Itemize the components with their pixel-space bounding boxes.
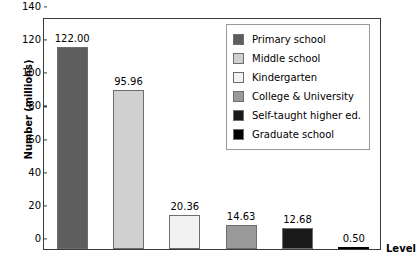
legend-item-label: Kindergarten [252,73,317,83]
legend-item-label: Middle school [252,54,320,64]
bar-value-label: 12.68 [283,215,312,225]
y-axis-tick-label: 80 [28,101,44,111]
y-axis-tick-mark [44,205,47,206]
y-axis-tick-mark [44,139,47,140]
y-axis-tick: 120 [22,35,44,45]
legend-item: Graduate school [233,125,361,144]
y-axis-tick: 80 [28,101,44,111]
legend-item-label: College & University [252,92,354,102]
bar-value-label: 0.50 [343,234,365,244]
legend-swatch [233,53,244,64]
y-axis-tick-label: 100 [22,68,44,78]
legend-item: Self-taught higher ed. [233,106,361,125]
y-axis-tick: 60 [28,135,44,145]
y-axis-tick: 140 [22,2,44,12]
x-axis-title: Level [386,243,416,254]
legend-item: Primary school [233,30,361,49]
bar-group: 122.00 [57,34,88,249]
y-axis-tick: 40 [28,168,44,178]
y-axis-tick: 100 [22,68,44,78]
legend-swatch [233,129,244,140]
bar-group: 14.63 [226,212,257,249]
y-axis-tick-label: 20 [28,201,44,211]
y-axis-tick-mark [44,238,47,239]
legend-swatch [233,91,244,102]
bar-group: 0.50 [338,234,369,249]
legend-item: Middle school [233,49,361,68]
legend-item-label: Graduate school [252,130,334,140]
bar [169,215,200,249]
legend-item-label: Self-taught higher ed. [252,111,361,121]
legend-swatch [233,110,244,121]
legend-item: Kindergarten [233,68,361,87]
y-axis-tick: 0 [35,234,44,244]
bar-value-label: 14.63 [227,212,256,222]
y-axis-tick-label: 120 [22,35,44,45]
y-axis-tick: 20 [28,201,44,211]
legend-swatch [233,34,244,45]
y-axis-tick-label: 60 [28,135,44,145]
legend-swatch [233,72,244,83]
y-axis-tick-label: 40 [28,168,44,178]
y-axis-tick-label: 140 [22,2,44,12]
y-axis-tick-mark [44,172,47,173]
legend-item-label: Primary school [252,35,326,45]
bar [113,90,144,249]
bar [282,228,313,249]
bar-group: 12.68 [282,215,313,249]
y-axis-tick-mark [44,106,47,107]
bar-value-label: 95.96 [114,77,143,87]
y-axis-tick-mark [44,6,47,7]
chart-legend: Primary schoolMiddle schoolKindergartenC… [226,24,370,150]
legend-item: College & University [233,87,361,106]
bar [226,225,257,249]
y-axis-tick-label: 0 [35,234,44,244]
bar-value-label: 20.36 [171,202,200,212]
bar-group: 20.36 [169,202,200,249]
bar [57,47,88,249]
bar-group: 95.96 [113,77,144,249]
y-axis-tick-mark [44,73,47,74]
bar-value-label: 122.00 [55,34,90,44]
y-axis-tick-mark [44,40,47,41]
bar [338,247,369,249]
